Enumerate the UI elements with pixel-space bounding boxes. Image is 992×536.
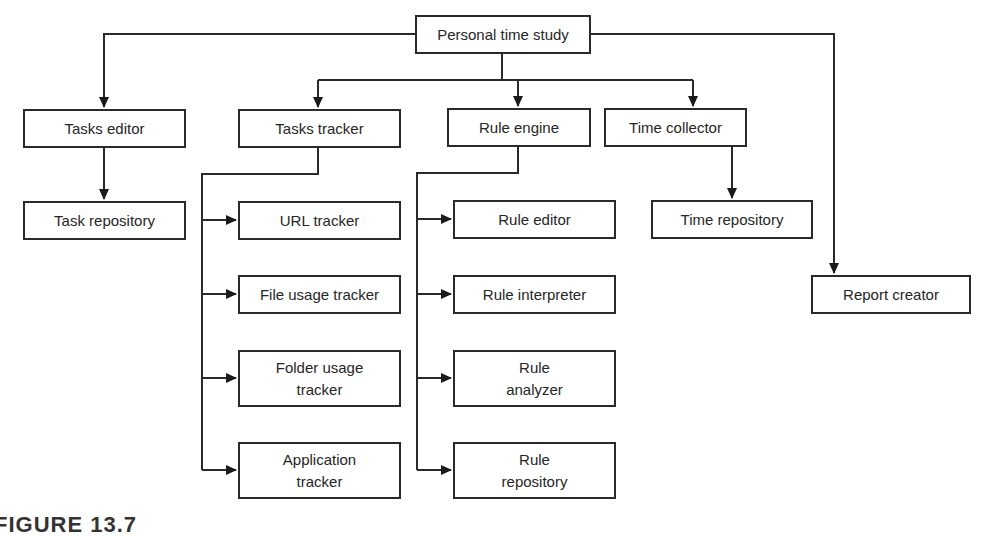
edge-root-tasks-editor [104, 34, 415, 107]
node-rule-analyzer: Rule analyzer [453, 350, 616, 407]
node-folder-usage-tracker: Folder usage tracker [238, 350, 401, 407]
node-personal-time-study: Personal time study [415, 15, 591, 54]
node-tasks-editor: Tasks editor [23, 109, 186, 148]
node-report-creator: Report creator [811, 275, 971, 314]
node-application-tracker: Application tracker [238, 442, 401, 499]
node-rule-editor: Rule editor [453, 200, 616, 239]
figure-caption: FIGURE 13.7 [0, 512, 137, 536]
node-rule-engine: Rule engine [447, 108, 591, 147]
node-rule-interpreter: Rule interpreter [453, 275, 616, 314]
node-tasks-tracker: Tasks tracker [238, 109, 401, 148]
node-time-repository: Time repository [651, 200, 813, 239]
node-url-tracker: URL tracker [238, 201, 401, 240]
node-time-collector: Time collector [604, 108, 747, 147]
node-rule-repository: Rule repository [453, 442, 616, 499]
node-file-usage-tracker: File usage tracker [238, 275, 401, 314]
node-task-repository: Task repository [23, 201, 186, 240]
